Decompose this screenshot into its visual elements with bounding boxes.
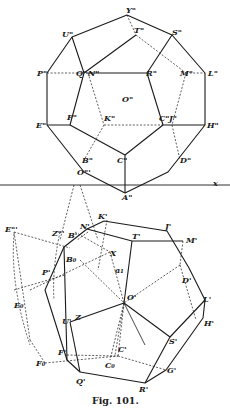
svg-text:P': P' bbox=[41, 267, 50, 277]
svg-text:G': G' bbox=[167, 365, 176, 375]
svg-text:Q': Q' bbox=[76, 376, 85, 386]
svg-text:B": B" bbox=[81, 155, 93, 165]
svg-text:B₀: B₀ bbox=[65, 254, 77, 264]
figure-caption: Fig. 101. bbox=[92, 395, 139, 406]
svg-text:C": C" bbox=[159, 113, 170, 123]
svg-text:R": R" bbox=[145, 68, 157, 78]
svg-text:E": E" bbox=[35, 120, 46, 130]
upper-labels: Y" U" T" S" P" Q" N" R" M" L" O" E" F" K… bbox=[35, 5, 219, 202]
svg-text:B': B' bbox=[67, 230, 77, 240]
svg-text:A": A" bbox=[121, 192, 132, 202]
svg-text:H': H' bbox=[203, 318, 214, 328]
svg-text:C": C" bbox=[117, 155, 128, 165]
svg-text:Z"': Z"' bbox=[51, 228, 64, 238]
svg-text:a₁: a₁ bbox=[115, 265, 124, 275]
svg-text:x: x bbox=[212, 178, 218, 188]
svg-text:F': F' bbox=[57, 347, 66, 357]
svg-text:D": D" bbox=[179, 155, 191, 165]
svg-text:Z: Z bbox=[74, 312, 82, 322]
svg-text:K': K' bbox=[97, 211, 107, 221]
geometry-figure: Y" U" T" S" P" Q" N" R" M" L" O" E" F" K… bbox=[0, 0, 230, 414]
svg-text:E"': E"' bbox=[4, 224, 18, 234]
svg-text:J': J' bbox=[163, 221, 171, 231]
svg-text:D': D' bbox=[181, 275, 191, 285]
svg-text:L": L" bbox=[207, 68, 218, 78]
lower-projection bbox=[13, 185, 205, 383]
svg-text:U': U' bbox=[62, 316, 71, 326]
svg-text:K": K" bbox=[103, 113, 115, 123]
svg-text:E₀: E₀ bbox=[13, 300, 24, 310]
svg-text:T': T' bbox=[132, 231, 140, 241]
svg-text:S': S' bbox=[169, 336, 177, 346]
upper-projection bbox=[0, 15, 230, 193]
svg-text:O"': O"' bbox=[77, 167, 91, 177]
svg-text:Y": Y" bbox=[126, 5, 136, 15]
svg-text:N": N" bbox=[87, 68, 99, 78]
svg-text:T": T" bbox=[134, 25, 144, 35]
svg-text:L': L' bbox=[202, 294, 211, 304]
svg-text:O': O' bbox=[127, 292, 136, 302]
svg-text:C₀: C₀ bbox=[105, 360, 115, 370]
svg-text:P": P" bbox=[36, 68, 47, 78]
svg-text:F": F" bbox=[66, 112, 77, 122]
svg-text:M': M' bbox=[185, 235, 197, 245]
svg-text:F₀: F₀ bbox=[35, 358, 46, 368]
svg-text:J": J" bbox=[167, 113, 177, 123]
svg-text:X: X bbox=[109, 248, 117, 258]
svg-text:S": S" bbox=[172, 27, 182, 37]
svg-text:M": M" bbox=[179, 68, 193, 78]
svg-text:O": O" bbox=[122, 94, 133, 104]
svg-text:U": U" bbox=[62, 29, 73, 39]
svg-text:N': N' bbox=[79, 221, 90, 231]
svg-text:C': C' bbox=[118, 344, 127, 354]
svg-text:H": H" bbox=[206, 120, 219, 130]
svg-text:Q": Q" bbox=[76, 68, 87, 78]
svg-text:R': R' bbox=[138, 384, 148, 394]
